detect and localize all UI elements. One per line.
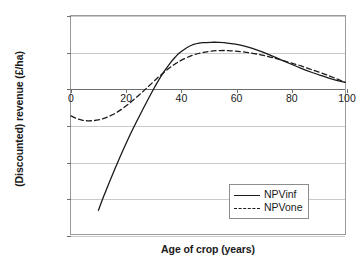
x-tick-mark <box>347 89 348 93</box>
series-line-npvone <box>71 50 345 120</box>
y-tick-mark <box>67 236 71 237</box>
legend-label: NPVinf <box>264 189 297 200</box>
x-axis-title: Age of crop (years) <box>70 243 346 255</box>
legend-line-swatch-icon <box>234 203 260 213</box>
chart-figure: (Discounted) revenue (£/ha) 400020000–20… <box>0 0 363 267</box>
legend-line-swatch-icon <box>234 190 260 200</box>
legend-label: NPVone <box>264 202 303 213</box>
gridline <box>71 236 345 237</box>
legend-item-npvone: NPVone <box>234 201 304 214</box>
plot-area: 400020000–2000–4000–6000–8000 0204060801… <box>70 15 346 235</box>
legend-item-npvinf: NPVinf <box>234 188 304 201</box>
chart-legend: NPVinfNPVone <box>229 184 309 219</box>
y-axis-title: (Discounted) revenue (£/ha) <box>13 14 25 224</box>
